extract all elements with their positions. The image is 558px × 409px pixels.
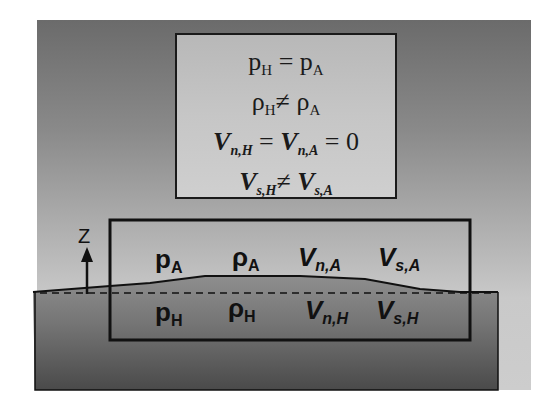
z-axis-label: Z [78, 226, 90, 246]
label-normal-velocity-upper: Vn,A [298, 244, 341, 274]
label-pressure-upper: pA [155, 246, 182, 276]
label-density-upper: ρA [232, 244, 260, 274]
label-pressure-lower: pH [155, 299, 182, 329]
equation-tangential-velocity: Vs,H≠ Vs,A [177, 169, 395, 198]
equation-pressure: pH = pA [177, 49, 395, 78]
label-normal-velocity-lower: Vn,H [305, 297, 348, 327]
z-arrowhead-icon [81, 247, 93, 262]
label-density-lower: ρH [228, 295, 256, 325]
equation-density: ρH≠ ρA [177, 89, 395, 118]
equations-box: pH = pA ρH≠ ρA Vn,H = Vn,A = 0 Vs,H≠ Vs,… [175, 33, 397, 199]
equation-normal-velocity: Vn,H = Vn,A = 0 [177, 129, 395, 158]
label-tangential-velocity-upper: Vs,A [378, 244, 420, 274]
label-tangential-velocity-lower: Vs,H [376, 297, 418, 327]
